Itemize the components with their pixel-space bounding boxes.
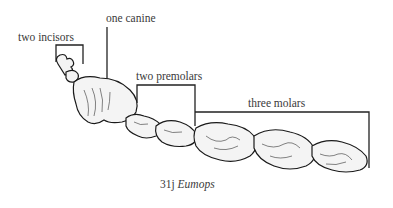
label-molars: three molars (248, 97, 305, 109)
caption-genus: Eumops (178, 178, 215, 190)
caption-number: 31j (160, 178, 175, 190)
molar-tooth-2 (254, 130, 315, 169)
molar-tooth-1 (194, 123, 256, 162)
figure-caption: 31j Eumops (160, 178, 215, 190)
label-canine: one canine (106, 12, 156, 24)
label-premolars: two premolars (136, 70, 202, 82)
molar-tooth-3 (312, 141, 367, 172)
label-incisors: two incisors (18, 31, 74, 43)
premolar-tooth-2 (156, 121, 197, 147)
